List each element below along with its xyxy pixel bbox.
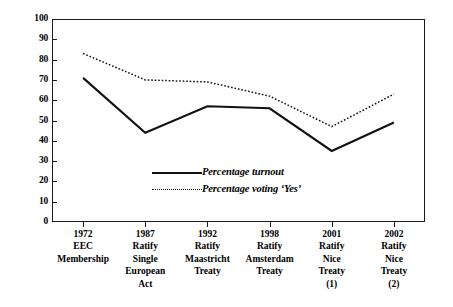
legend-item-turnout: Percentage turnout <box>150 163 365 180</box>
legend-swatch-dotted-line-icon <box>150 184 202 194</box>
x-axis-description-line: Act <box>97 278 193 290</box>
legend-item-voting-yes: Percentage voting ‘Yes’ <box>150 180 365 197</box>
legend-label-voting-yes: Percentage voting ‘Yes’ <box>202 183 301 194</box>
x-axis-label-group: 1972EECMembership1987RatifySingleEuropea… <box>0 228 453 307</box>
x-axis-description-line: (2) <box>346 278 442 290</box>
x-axis-tick-label: 2002RatifyNiceTreaty(2) <box>346 228 442 290</box>
x-axis-tick-mark <box>332 222 333 227</box>
x-axis-tick-mark <box>394 222 395 227</box>
x-axis-year-label: 2002 <box>346 228 442 240</box>
x-axis-tick-mark <box>83 222 84 227</box>
x-axis-description-line: Treaty <box>346 265 442 277</box>
x-axis-tick-mark <box>270 222 271 227</box>
x-axis-tick-mark <box>207 222 208 227</box>
legend: Percentage turnout Percentage voting ‘Ye… <box>150 163 365 197</box>
x-axis-description-line: Nice <box>346 253 442 265</box>
legend-label-turnout: Percentage turnout <box>202 166 284 177</box>
legend-swatch-solid-line-icon <box>150 167 202 177</box>
x-axis-tick-mark <box>145 222 146 227</box>
series-line-percentage-voting-yes <box>83 54 394 127</box>
line-chart: 0102030405060708090100 1972EECMembership… <box>0 0 453 307</box>
x-axis-description-line: Ratify <box>346 240 442 252</box>
